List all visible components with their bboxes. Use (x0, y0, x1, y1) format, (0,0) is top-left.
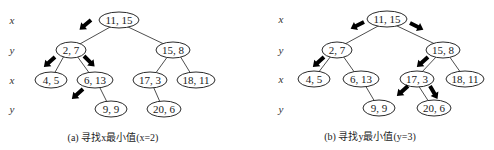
level-label-1: y (278, 44, 284, 56)
level-label-1: y (9, 44, 15, 56)
node-label: 11, 15 (373, 13, 401, 25)
node-label: 2, 7 (63, 44, 80, 56)
node-label: 4, 5 (43, 74, 60, 86)
edge (365, 85, 375, 102)
search-arrow-icon (81, 53, 98, 70)
tree-node: 11, 15 (367, 11, 407, 27)
search-arrow-icon (77, 17, 94, 34)
edge (449, 56, 461, 73)
panel-a: x y x y 11, 15 2, 7 15, 8 4, 5 (9, 12, 215, 144)
search-arrow-icon (426, 84, 441, 101)
tree-node: 18, 11 (177, 72, 215, 88)
search-arrow-icon (414, 54, 431, 71)
node-label: 2, 7 (329, 44, 346, 56)
tree-node: 6, 13 (77, 72, 113, 88)
tree-node: 2, 7 (56, 42, 86, 58)
edge (99, 86, 107, 102)
node-label: 18, 11 (182, 74, 209, 86)
tree-node: 17, 3 (400, 71, 434, 87)
node-label: 17, 3 (139, 74, 162, 86)
panel-b: x y x y 11, 15 2, 7 15, 8 4, 5 (278, 11, 484, 143)
caption: (a) 寻找x最小值(x=2) (68, 131, 159, 144)
node-label: 20, 6 (153, 103, 176, 115)
tree-node: 9, 9 (95, 101, 127, 117)
tree-node: 9, 9 (363, 100, 395, 116)
tree-node: 4, 5 (35, 72, 67, 88)
edge (180, 56, 191, 74)
node-label: 15, 8 (432, 44, 455, 56)
edge (345, 25, 380, 44)
level-label-0: x (278, 13, 284, 25)
node-label: 9, 9 (103, 103, 120, 115)
edge (395, 25, 435, 44)
level-label-2: x (278, 73, 284, 85)
node-label: 18, 11 (451, 73, 478, 85)
level-label-0: x (9, 14, 15, 26)
tree-node: 15, 8 (156, 42, 190, 58)
node-label: 6, 13 (84, 74, 107, 86)
edge (155, 56, 168, 74)
tree-node: 4, 5 (298, 71, 330, 87)
edge (153, 86, 160, 102)
node-label: 15, 8 (162, 44, 185, 56)
tree-node: 20, 6 (147, 101, 181, 117)
node-label: 6, 13 (350, 73, 373, 85)
edge (126, 26, 166, 45)
tree-node: 6, 13 (343, 71, 379, 87)
search-arrow-icon (408, 19, 425, 34)
node-label: 20, 6 (423, 102, 446, 114)
caption: (b) 寻找y最小值(y=3) (324, 130, 415, 143)
node-label: 17, 3 (406, 73, 429, 85)
level-label-2: x (9, 74, 15, 86)
level-label-3: y (278, 103, 284, 115)
search-arrow-icon (41, 54, 58, 71)
tree-node: 15, 8 (426, 42, 460, 58)
node-label: 9, 9 (371, 102, 388, 114)
search-arrow-icon (310, 54, 327, 71)
tree-node: 17, 3 (133, 72, 167, 88)
tree-node: 11, 15 (99, 12, 139, 28)
level-label-3: y (9, 103, 15, 115)
search-arrow-icon (349, 18, 366, 33)
tree-node: 2, 7 (322, 42, 352, 58)
node-label: 4, 5 (306, 73, 323, 85)
node-label: 11, 15 (105, 14, 133, 26)
tree-node: 18, 11 (446, 71, 484, 87)
edge (343, 56, 355, 73)
kd-tree-figure: x y x y 11, 15 2, 7 15, 8 4, 5 (0, 0, 494, 150)
tree-node: 20, 6 (417, 100, 451, 116)
edge (418, 85, 429, 102)
search-arrow-icon (69, 86, 86, 103)
